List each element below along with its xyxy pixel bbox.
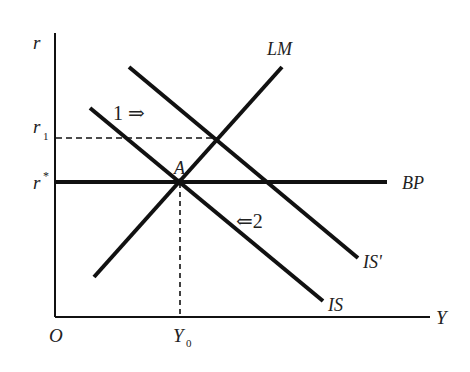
- is-curve: [90, 108, 323, 301]
- rstar-tick-label: r *: [33, 169, 49, 193]
- svg-text:*: *: [43, 169, 49, 183]
- lm-label: LM: [266, 39, 293, 59]
- x-axis-label: Y: [436, 307, 449, 328]
- point-a-label: A: [173, 158, 186, 178]
- is-prime-label: IS': [362, 252, 383, 272]
- svg-text:r: r: [33, 172, 41, 193]
- is-label: IS: [327, 295, 343, 315]
- svg-text:0: 0: [186, 337, 192, 349]
- shift-2-annotation: ⇐2: [236, 210, 263, 232]
- svg-text:Y: Y: [173, 325, 186, 346]
- y0-tick-label: Y 0: [173, 325, 192, 349]
- y-axis-label: r: [33, 32, 41, 53]
- shift-1-annotation: 1 ⇒: [113, 102, 145, 124]
- is-lm-bp-diagram: r Y O r 1 r * Y 0 LM IS IS' BP A 1 ⇒ ⇐2: [0, 0, 470, 372]
- svg-text:r: r: [33, 116, 41, 137]
- svg-text:1: 1: [43, 130, 49, 142]
- bp-label: BP: [402, 173, 424, 193]
- origin-label: O: [49, 325, 63, 346]
- equilibrium-point-a: [177, 179, 184, 186]
- r1-tick-label: r 1: [33, 116, 49, 142]
